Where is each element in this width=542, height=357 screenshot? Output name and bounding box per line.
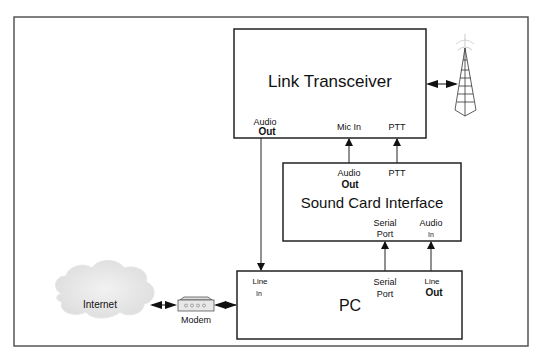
pc-title: PC xyxy=(339,297,361,314)
lt-audio-out-label-2: Out xyxy=(258,126,276,137)
internet-label: Internet xyxy=(83,299,117,310)
sound-card-interface-title: Sound Card Interface xyxy=(301,194,444,211)
sci-audio-in-label-1: Audio xyxy=(419,218,442,228)
system-diagram: Link Transceiver Audio Out Mic In PTT So… xyxy=(0,0,542,357)
pc-block: PC Line In Serial Port Line Out xyxy=(237,271,462,339)
pc-line-out-label-2: Out xyxy=(425,287,443,298)
radio-tower-icon xyxy=(455,34,476,116)
lt-ptt-label: PTT xyxy=(389,122,407,132)
sci-ptt-label: PTT xyxy=(389,168,407,178)
pc-serial-port-label-2: Port xyxy=(377,289,394,299)
sci-serial-port-label-2: Port xyxy=(377,229,394,239)
modem-pc-connector xyxy=(214,301,237,309)
sci-audio-out-label-1: Audio xyxy=(337,168,360,178)
link-transceiver-block: Link Transceiver Audio Out Mic In PTT xyxy=(234,29,426,138)
link-transceiver-title: Link Transceiver xyxy=(268,72,392,91)
lt-mic-in-label: Mic In xyxy=(337,122,361,132)
pc-serial-port-label-1: Serial xyxy=(373,277,396,287)
sound-card-interface-block: Sound Card Interface Audio Out PTT Seria… xyxy=(283,163,461,241)
sci-audio-in-label-2: In xyxy=(428,231,434,238)
pc-line-in-label-1: Line xyxy=(252,277,268,286)
modem-label: Modem xyxy=(181,315,211,325)
pc-line-in-label-2: In xyxy=(256,290,262,297)
internet-cloud: Internet xyxy=(56,261,154,319)
sci-audio-out-label-2: Out xyxy=(341,179,359,190)
sci-serial-port-label-1: Serial xyxy=(373,218,396,228)
modem-icon: Modem xyxy=(178,297,214,325)
transceiver-antenna-connector xyxy=(426,80,458,88)
pc-line-out-label-1: Line xyxy=(424,277,440,286)
internet-modem-connector xyxy=(150,301,177,309)
